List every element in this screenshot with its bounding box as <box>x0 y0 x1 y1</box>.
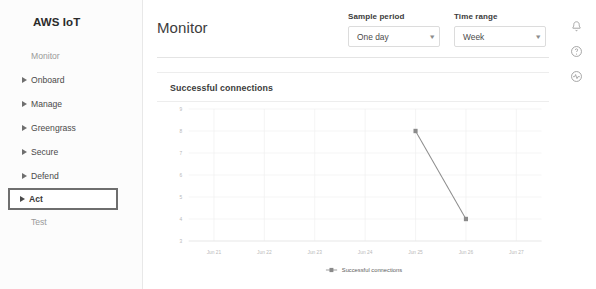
chevron-right-icon <box>22 101 31 107</box>
legend-marker-swatch <box>329 268 333 272</box>
sidebar-item-secure[interactable]: Secure <box>0 140 142 164</box>
data-point-marker <box>464 217 468 221</box>
chevron-right-icon <box>22 125 31 131</box>
brand-title: AWS IoT <box>0 12 142 28</box>
sample-period-label: Sample period <box>348 12 440 21</box>
y-tick-label: 6 <box>180 172 183 178</box>
sample-period-select[interactable]: One day ▾ <box>348 26 440 47</box>
chevron-down-icon: ▾ <box>430 33 435 40</box>
x-tick-label: Jun 27 <box>509 249 524 255</box>
time-range-value: Week <box>463 32 536 42</box>
sidebar-item-label: Onboard <box>31 76 64 85</box>
chart-y-axis-ticks: 9876543 <box>180 106 183 244</box>
chart-card-title: Successful connections <box>157 73 549 93</box>
header-icon-rail <box>556 12 596 84</box>
x-tick-label: Jun 21 <box>207 249 222 255</box>
x-tick-label: Jun 24 <box>358 249 373 255</box>
x-tick-label: Jun 25 <box>408 249 423 255</box>
sidebar-nav: Monitor Onboard Manage Greengrass <box>0 44 142 234</box>
legend-label: Successful connections <box>342 267 402 273</box>
chevron-right-icon <box>20 196 29 202</box>
activity-circle-icon[interactable] <box>568 68 584 84</box>
chevron-right-icon <box>22 77 31 83</box>
page-header: Monitor Sample period One day ▾ Time ran… <box>143 0 596 56</box>
chevron-down-icon: ▾ <box>536 33 541 40</box>
sidebar-item-label: Secure <box>31 148 58 157</box>
time-range-select[interactable]: Week ▾ <box>454 26 546 47</box>
help-circle-icon[interactable] <box>568 43 584 59</box>
sample-period-value: One day <box>357 32 430 42</box>
page-title: Monitor <box>143 12 208 36</box>
sidebar-item-label: Defend <box>31 172 59 181</box>
header-controls: Sample period One day ▾ Time range Week … <box>348 12 556 47</box>
y-tick-label: 4 <box>180 216 183 222</box>
sidebar-item-label: Monitor <box>31 52 60 61</box>
sidebar-item-test[interactable]: Test <box>0 210 142 234</box>
header-divider <box>157 57 549 58</box>
chevron-right-icon <box>22 173 31 179</box>
sidebar-item-label: Test <box>31 218 47 227</box>
time-range-control: Time range Week ▾ <box>454 12 546 47</box>
chart-gridlines <box>189 109 542 241</box>
y-tick-label: 3 <box>180 238 183 244</box>
x-tick-label: Jun 23 <box>307 249 322 255</box>
sidebar-item-manage[interactable]: Manage <box>0 92 142 116</box>
chevron-right-icon <box>22 149 31 155</box>
sidebar-item-onboard[interactable]: Onboard <box>0 68 142 92</box>
sample-period-control: Sample period One day ▾ <box>348 12 440 47</box>
y-tick-label: 8 <box>180 128 183 134</box>
sidebar-item-defend[interactable]: Defend <box>0 164 142 188</box>
bell-icon[interactable] <box>568 18 584 34</box>
sidebar-item-monitor[interactable]: Monitor <box>0 44 142 68</box>
sidebar-item-label: Manage <box>31 100 62 109</box>
chart-x-axis-ticks: Jun 21Jun 22Jun 23Jun 24Jun 25Jun 26Jun … <box>207 249 524 255</box>
y-tick-label: 5 <box>180 194 183 200</box>
x-tick-label: Jun 22 <box>257 249 272 255</box>
data-point-marker <box>413 129 417 133</box>
sidebar: AWS IoT Monitor Onboard Manage <box>0 0 143 289</box>
line-chart: 9876543 Jun 21Jun 22Jun 23Jun 24Jun 25Ju… <box>157 101 549 281</box>
y-tick-label: 7 <box>180 150 183 156</box>
y-tick-label: 9 <box>180 106 183 112</box>
x-tick-label: Jun 26 <box>459 249 474 255</box>
main-content: Monitor Sample period One day ▾ Time ran… <box>143 0 596 289</box>
sidebar-item-label: Greengrass <box>31 124 76 133</box>
aws-iot-console: AWS IoT Monitor Onboard Manage <box>0 0 596 289</box>
sidebar-item-greengrass[interactable]: Greengrass <box>0 116 142 140</box>
sidebar-item-label: Act <box>29 195 43 204</box>
chart-area: 9876543 Jun 21Jun 22Jun 23Jun 24Jun 25Ju… <box>157 101 549 281</box>
chart-card: Successful connections 9876543 Jun 21Jun… <box>157 72 549 281</box>
sidebar-item-act[interactable]: Act <box>8 188 118 210</box>
time-range-label: Time range <box>454 12 546 21</box>
chart-legend: Successful connections <box>326 267 402 273</box>
